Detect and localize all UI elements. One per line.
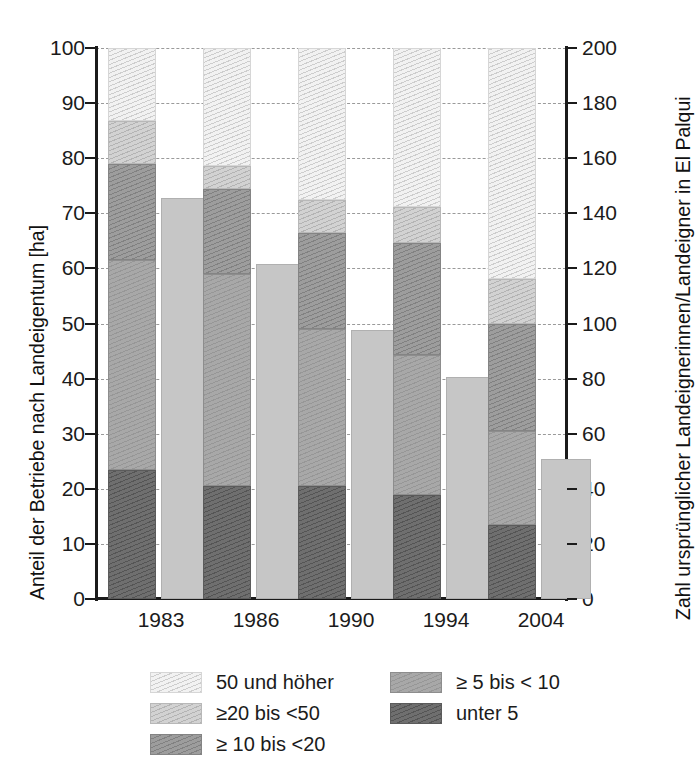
y-axis-right-tick [567,323,577,325]
y-axis-right-tick [567,212,577,214]
y-axis-right-tick [567,378,577,380]
bar-segment[interactable] [108,121,156,163]
bar-segment[interactable] [488,525,536,599]
y-axis-right-tick [567,47,577,49]
bar-segment[interactable] [298,233,346,329]
legend-swatch-icon [150,672,202,693]
y-axis-left-tick [85,212,95,214]
y-axis-right-tick [567,543,577,545]
y-axis-left-title: Anteil der Betriebe nach Landeigentum [h… [26,225,49,600]
bar-group [488,48,593,599]
bar-segment[interactable] [108,260,156,469]
legend-label: ≥20 bis <50 [216,702,320,725]
y-axis-left-tick-label: 100 [37,37,85,58]
y-axis-right-tick [567,433,577,435]
legend-column-2: ≥ 5 bis < 10unter 5 [390,668,560,730]
y-axis-right-tick [567,102,577,104]
y-axis-left-tick-label: 70 [37,202,85,223]
bar-segment[interactable] [203,486,251,599]
bar-group [393,48,498,599]
legend-label: 50 und höher [216,671,334,694]
bar-segment[interactable] [393,355,441,496]
legend-label: ≥ 10 bis <20 [216,733,325,756]
legend-column-1: 50 und höher≥20 bis <50≥ 10 bis <20 [150,668,334,761]
bar-segment[interactable] [203,189,251,274]
bar-segment[interactable] [203,48,251,166]
stacked-bar[interactable] [393,48,441,599]
bar-segment[interactable] [488,431,536,525]
bar-segment[interactable] [488,324,536,431]
y-axis-right-tick [567,598,577,600]
y-axis-left-tick [85,102,95,104]
y-axis-left-tick [85,267,95,269]
chart-legend: 50 und höher≥20 bis <50≥ 10 bis <20 ≥ 5 … [150,668,580,760]
y-axis-left-tick [85,433,95,435]
y-axis-left-tick [85,598,95,600]
x-axis-category-label: 2004 [486,608,596,632]
stacked-bar[interactable] [203,48,251,599]
y-axis-left-tick-label: 80 [37,147,85,168]
y-axis-right-tick [567,488,577,490]
plot-area [96,48,566,599]
y-axis-left-tick [85,157,95,159]
bar-group [298,48,403,599]
y-axis-left-tick [85,378,95,380]
legend-swatch-icon [390,703,442,724]
x-axis-category-label: 1994 [391,608,501,632]
bar-segment[interactable] [393,243,441,355]
stacked-bar[interactable] [298,48,346,599]
bar-segment[interactable] [298,48,346,200]
legend-item[interactable]: 50 und höher [150,668,334,696]
bar-segment[interactable] [203,274,251,486]
bar-segment[interactable] [298,200,346,233]
bar-segment[interactable] [203,166,251,188]
bar-segment[interactable] [298,486,346,599]
legend-label: ≥ 5 bis < 10 [456,671,560,694]
bar-segment[interactable] [393,207,441,243]
y-axis-left-tick [85,323,95,325]
legend-item[interactable]: ≥20 bis <50 [150,699,334,727]
count-bar[interactable] [541,459,591,599]
bar-segment[interactable] [108,470,156,599]
bar-segment[interactable] [488,48,536,279]
y-axis-left-tick [85,543,95,545]
legend-label: unter 5 [456,702,518,725]
bar-segment[interactable] [298,329,346,486]
stacked-bar[interactable] [108,48,156,599]
bar-segment[interactable] [488,279,536,323]
y-axis-left-tick [85,47,95,49]
legend-swatch-icon [150,734,202,755]
y-axis-left-tick-label: 90 [37,92,85,113]
bar-segment[interactable] [108,164,156,260]
bar-segment[interactable] [108,48,156,121]
x-axis-category-label: 1986 [201,608,311,632]
legend-item[interactable]: ≥ 10 bis <20 [150,730,334,758]
y-axis-right-tick [567,267,577,269]
legend-item[interactable]: ≥ 5 bis < 10 [390,668,560,696]
x-axis-category-label: 1983 [106,608,216,632]
bar-group [203,48,308,599]
x-axis-category-label: 1990 [296,608,406,632]
bar-segment[interactable] [393,495,441,599]
legend-item[interactable]: unter 5 [390,699,560,727]
y-axis-left-tick [85,488,95,490]
y-axis-right-tick [567,157,577,159]
bar-segment[interactable] [393,48,441,207]
legend-swatch-icon [390,672,442,693]
y-axis-right-title: Zahl ursprünglicher Landeignerinnen/Land… [672,96,695,620]
legend-swatch-icon [150,703,202,724]
stacked-bar[interactable] [488,48,536,599]
bar-group [108,48,213,599]
